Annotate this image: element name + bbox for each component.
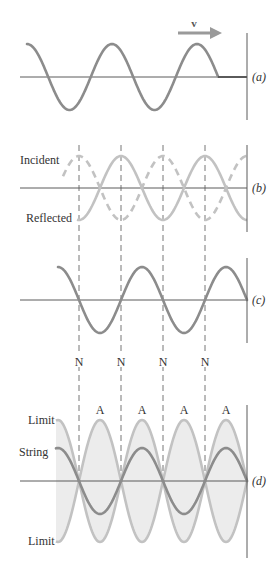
velocity-arrow [178,27,222,39]
panel-a: v (a) [20,17,266,120]
incident-label: Incident [20,153,60,167]
node-label: N [117,355,126,369]
panel-b: Incident Reflected (b) [20,145,266,232]
panel-label-d: (d) [252,474,266,488]
node-label: N [159,355,168,369]
antinode-label: A [180,403,189,417]
limit-top-label: Limit [28,413,55,427]
antinode-label: A [138,403,147,417]
reflected-label: Reflected [26,211,72,225]
limit-bottom-label: Limit [28,534,55,548]
panel-c: (c) NNNN [20,258,265,369]
panel-label-b: (b) [252,181,266,195]
velocity-label: v [191,17,197,29]
panel-label-c: (c) [252,293,265,307]
standing-wave-figure: v (a) Incident Reflected (b) (c) NNNN Li… [0,0,275,578]
arrow-head-icon [210,27,222,39]
panel-d: Limit String Limit (d) AAAA [19,403,266,558]
antinode-label: A [222,403,231,417]
panel-label-a: (a) [252,70,266,84]
node-label: N [75,355,84,369]
node-label: N [201,355,210,369]
node-labels: NNNN [74,354,210,369]
antinode-label: A [96,403,105,417]
string-label: String [19,445,48,459]
